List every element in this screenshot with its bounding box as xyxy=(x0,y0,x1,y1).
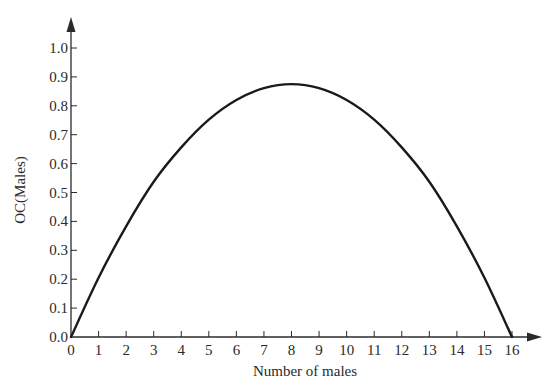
y-tick-label: 0.9 xyxy=(49,69,68,85)
y-tick-label: 0.6 xyxy=(49,156,68,172)
x-tick-label: 15 xyxy=(477,342,492,358)
x-axis-arrow-icon xyxy=(527,333,542,342)
x-tick-label: 7 xyxy=(260,342,268,358)
x-tick-label: 10 xyxy=(339,342,354,358)
x-tick-label: 3 xyxy=(150,342,158,358)
plot-area xyxy=(71,84,512,337)
y-axis-label: OC(Males) xyxy=(12,156,29,224)
y-tick-label: 1.0 xyxy=(49,40,68,56)
y-tick-label: 0.5 xyxy=(49,185,68,201)
series-line-oc-males xyxy=(71,84,512,337)
y-tick-label: 0.1 xyxy=(49,300,68,316)
x-tick-label: 14 xyxy=(449,342,465,358)
x-tick-label: 2 xyxy=(122,342,130,358)
x-tick-label: 12 xyxy=(394,342,409,358)
x-tick-label: 1 xyxy=(95,342,103,358)
x-tick-label: 9 xyxy=(315,342,323,358)
y-axis xyxy=(67,17,76,337)
x-axis xyxy=(71,333,542,342)
oc-curve-chart: 0.00.10.20.30.40.50.60.70.80.91.0 012345… xyxy=(0,0,554,389)
x-axis-label: Number of males xyxy=(253,363,357,379)
x-tick-label: 4 xyxy=(178,342,186,358)
x-tick-label: 13 xyxy=(422,342,437,358)
y-tick-label: 0.8 xyxy=(49,98,68,114)
y-tick-label: 0.2 xyxy=(49,271,68,287)
y-tick-label: 0.0 xyxy=(49,329,68,345)
x-tick-label: 16 xyxy=(505,342,521,358)
x-tick-label: 8 xyxy=(288,342,296,358)
x-tick-label: 11 xyxy=(367,342,381,358)
y-axis-arrow-icon xyxy=(67,17,76,32)
y-tick-label: 0.7 xyxy=(49,127,68,143)
y-tick-label: 0.4 xyxy=(49,213,68,229)
x-tick-label: 0 xyxy=(67,342,75,358)
y-tick-group: 0.00.10.20.30.40.50.60.70.80.91.0 xyxy=(49,40,77,345)
x-tick-label: 6 xyxy=(233,342,241,358)
x-tick-group: 012345678910111213141516 xyxy=(67,331,520,358)
y-tick-label: 0.3 xyxy=(49,242,68,258)
x-tick-label: 5 xyxy=(205,342,213,358)
